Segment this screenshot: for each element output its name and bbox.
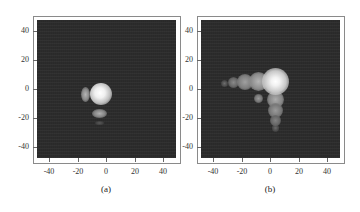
side-lobe-faint bbox=[95, 121, 104, 125]
x-tick bbox=[163, 158, 164, 162]
x-tick bbox=[213, 158, 214, 162]
side-lobe-bottom bbox=[92, 109, 107, 118]
x-tick bbox=[327, 158, 328, 162]
x-tick bbox=[299, 158, 300, 162]
y-tick-label: -20 bbox=[173, 113, 193, 122]
y-tick-label: -40 bbox=[173, 142, 193, 151]
panel-caption-b: (b) bbox=[255, 184, 285, 194]
y-tick-label: -20 bbox=[9, 113, 29, 122]
main-spot bbox=[262, 68, 289, 95]
chain-spot-h5 bbox=[221, 80, 228, 87]
y-tick bbox=[197, 31, 201, 32]
y-tick bbox=[33, 89, 37, 90]
side-lobe-left bbox=[81, 87, 90, 102]
y-tick bbox=[33, 60, 37, 61]
heatmap-a bbox=[37, 20, 176, 158]
y-tick-label: 40 bbox=[9, 26, 29, 35]
x-tick-label: 40 bbox=[153, 167, 173, 176]
y-tick bbox=[197, 89, 201, 90]
y-tick-label: 20 bbox=[9, 55, 29, 64]
x-tick-label: -20 bbox=[232, 167, 252, 176]
x-tick bbox=[106, 158, 107, 162]
y-tick bbox=[197, 118, 201, 119]
chain-spot-v5 bbox=[272, 124, 279, 132]
y-tick bbox=[33, 31, 37, 32]
y-tick bbox=[33, 147, 37, 148]
x-tick-label: 20 bbox=[289, 167, 309, 176]
y-tick bbox=[33, 118, 37, 119]
x-tick bbox=[242, 158, 243, 162]
x-tick-label: 20 bbox=[125, 167, 145, 176]
x-tick bbox=[270, 158, 271, 162]
main-spot bbox=[90, 83, 112, 105]
y-tick bbox=[197, 147, 201, 148]
x-tick-label: 0 bbox=[96, 167, 116, 176]
y-tick-label: -40 bbox=[9, 142, 29, 151]
x-tick bbox=[135, 158, 136, 162]
x-tick bbox=[78, 158, 79, 162]
x-tick-label: 40 bbox=[317, 167, 337, 176]
x-tick-label: -40 bbox=[39, 167, 59, 176]
y-tick-label: 40 bbox=[173, 26, 193, 35]
x-tick-label: -40 bbox=[203, 167, 223, 176]
x-tick bbox=[49, 158, 50, 162]
x-tick-label: -20 bbox=[68, 167, 88, 176]
heatmap-b bbox=[201, 20, 340, 158]
y-tick bbox=[197, 60, 201, 61]
off-diagonal-spot bbox=[254, 94, 263, 103]
x-tick-label: 0 bbox=[260, 167, 280, 176]
panel-caption-a: (a) bbox=[91, 184, 121, 194]
y-tick-label: 0 bbox=[9, 84, 29, 93]
y-tick-label: 0 bbox=[173, 84, 193, 93]
y-tick-label: 20 bbox=[173, 55, 193, 64]
